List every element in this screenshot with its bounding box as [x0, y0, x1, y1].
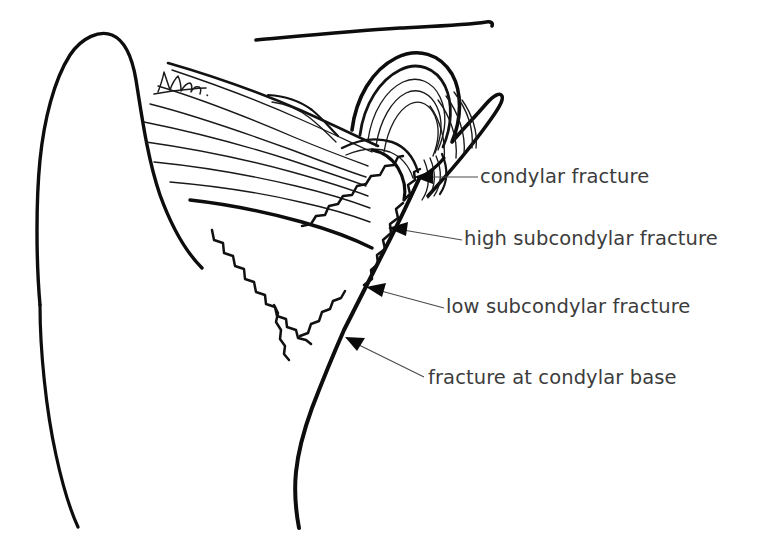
- label-low-subcondylar-fracture: low subcondylar fracture: [446, 297, 690, 317]
- anatomical-figure: condylar fracture high subcondylar fract…: [0, 0, 760, 537]
- label-high-subcondylar-fracture: high subcondylar fracture: [464, 229, 718, 249]
- label-condylar-fracture: condylar fracture: [480, 167, 649, 187]
- label-fracture-at-condylar-base: fracture at condylar base: [428, 368, 677, 388]
- annotation-label-layer: condylar fracture high subcondylar fract…: [0, 0, 760, 537]
